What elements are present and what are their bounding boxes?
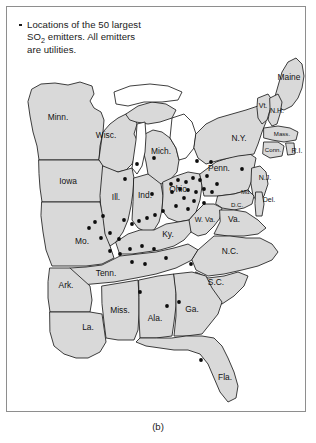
state-label-fla: Fla.	[218, 372, 232, 382]
emitter-dot	[122, 218, 126, 222]
emitter-dot	[140, 244, 144, 248]
emitter-dot	[165, 304, 169, 308]
state-label-mass: Mass.	[274, 130, 291, 137]
emitter-dot	[176, 178, 180, 182]
emitter-dot	[87, 226, 91, 230]
state-label-del: Del.	[263, 196, 276, 204]
state-label-ind: Ind.	[138, 190, 152, 200]
emitter-dot	[123, 177, 127, 181]
emitter-dot	[161, 209, 165, 213]
state-label-miss: Miss.	[110, 305, 130, 315]
state-label-n-h: N.H.	[270, 107, 284, 115]
emitter-dot	[169, 182, 173, 186]
emitter-dot	[199, 358, 203, 362]
state-label-s-c: S.C.	[208, 277, 224, 287]
emitter-dot	[135, 162, 139, 166]
state-label-w-va: W. Va.	[195, 216, 215, 224]
state-michigan-upper	[126, 102, 176, 124]
us-map-svg: Minn.Wisc.Mich.IowaIll.Ind.OhioPenn.N.Y.…	[6, 6, 306, 412]
emitter-dot	[152, 156, 156, 160]
emitter-dot	[174, 204, 178, 208]
state-label-md: Md.	[241, 188, 251, 195]
map-container: Minn.Wisc.Mich.IowaIll.Ind.OhioPenn.N.Y.…	[6, 6, 306, 412]
state-louisiana	[50, 312, 106, 358]
emitter-dot	[178, 187, 182, 191]
emitter-dot	[194, 190, 198, 194]
state-label-ark: Ark.	[59, 280, 74, 290]
emitter-dot	[182, 196, 186, 200]
state-label-tenn: Tenn.	[96, 268, 117, 278]
state-alabama	[139, 274, 176, 338]
emitter-dot	[184, 180, 188, 184]
emitter-dot	[101, 214, 105, 218]
emitter-dot	[130, 222, 134, 226]
state-label-mo: Mo.	[75, 236, 89, 246]
state-label-r-i: R.I.	[291, 147, 302, 155]
state-label-ga: Ga.	[185, 304, 199, 314]
state-label-conn: Conn.	[265, 146, 282, 153]
emitter-dot	[202, 187, 206, 191]
lake-superior	[114, 84, 182, 106]
emitter-dot	[152, 247, 156, 251]
emitter-dot	[192, 199, 196, 203]
state-new-york	[194, 106, 266, 164]
state-indiana	[132, 174, 163, 232]
emitter-dot	[240, 167, 244, 171]
emitter-dot	[99, 236, 103, 240]
state-label-mich: Mich.	[151, 146, 171, 156]
emitter-dot	[145, 216, 149, 220]
state-label-d-c: D.C.	[231, 201, 243, 208]
emitter-dot	[164, 256, 168, 260]
emitter-dot	[108, 231, 112, 235]
emitter-dot	[130, 260, 134, 264]
state-wisconsin	[99, 114, 138, 172]
emitter-dot	[189, 262, 193, 266]
state-label-n-y: N.Y.	[231, 133, 246, 143]
emitter-dot	[137, 219, 141, 223]
emitter-dot	[191, 176, 195, 180]
figure-caption: (b)	[0, 421, 316, 432]
emitter-dot	[153, 213, 157, 217]
state-label-n-j: N.J.	[259, 174, 272, 182]
state-label-n-c: N.C.	[222, 246, 239, 256]
state-label-va: Va.	[228, 214, 240, 224]
state-label-maine: Maine	[278, 72, 301, 82]
emitter-dot	[198, 178, 202, 182]
emitter-dot	[186, 207, 190, 211]
state-label-iowa: Iowa	[59, 176, 77, 186]
figure-panel: Locations of the 50 largestSO2 emitters.…	[0, 0, 316, 443]
emitter-dot	[93, 220, 97, 224]
state-label-minn: Minn.	[48, 112, 68, 122]
emitter-dot	[186, 188, 190, 192]
emitter-dot	[138, 290, 142, 294]
emitter-dot	[177, 300, 181, 304]
emitter-dot	[117, 237, 121, 241]
emitter-dot	[205, 174, 209, 178]
emitter-dot	[108, 249, 112, 253]
emitter-dot	[128, 247, 132, 251]
emitter-dot	[209, 160, 213, 164]
emitter-dot	[215, 182, 219, 186]
state-label-ky: Ky.	[162, 229, 173, 239]
state-label-ill: Ill.	[112, 192, 120, 202]
state-label-ala: Ala.	[148, 313, 162, 323]
emitter-dot	[202, 201, 206, 205]
state-label-la: La.	[82, 322, 94, 332]
emitter-dot	[150, 192, 154, 196]
emitter-dot	[170, 190, 174, 194]
state-florida	[136, 336, 238, 402]
state-label-wisc: Wisc.	[96, 130, 116, 140]
emitter-dot	[210, 190, 214, 194]
emitter-dot	[143, 262, 147, 266]
emitter-dot	[195, 159, 199, 163]
emitter-dot	[118, 252, 122, 256]
state-label-penn: Penn.	[208, 163, 230, 173]
state-label-vt: Vt.	[259, 102, 268, 110]
